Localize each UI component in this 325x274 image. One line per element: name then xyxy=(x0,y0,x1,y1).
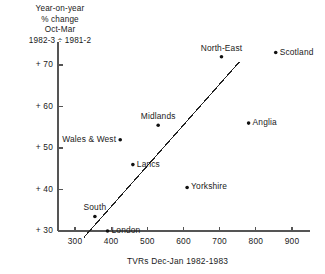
data-point-marker xyxy=(274,51,278,55)
data-point-marker xyxy=(106,229,110,233)
data-point-label: Yorkshire xyxy=(191,181,227,191)
trend-line-segment xyxy=(84,62,240,238)
data-point-label: London xyxy=(112,225,141,235)
x-tick-label: 400 xyxy=(91,236,131,246)
y-tick-label: + 50 xyxy=(17,142,53,152)
x-tick-label: 500 xyxy=(127,236,167,246)
data-point-label: Midlands xyxy=(141,111,176,121)
data-point-label: Anglia xyxy=(253,117,277,127)
data-point-marker xyxy=(93,215,97,219)
x-tick-label: 600 xyxy=(164,236,204,246)
y-tick-label: + 30 xyxy=(17,225,53,235)
trend-line xyxy=(84,62,240,238)
data-point-label: Lancs xyxy=(137,159,160,169)
data-point-marker xyxy=(118,138,122,142)
y-tick-label: + 60 xyxy=(17,101,53,111)
data-point-marker xyxy=(131,163,135,167)
data-point-marker xyxy=(220,55,224,59)
x-tick-label: 900 xyxy=(272,236,312,246)
data-point-marker xyxy=(185,186,189,190)
x-axis-title: TVRs Dec-Jan 1982-1983 xyxy=(0,256,325,266)
data-point-marker xyxy=(247,121,251,125)
y-tick-label: + 40 xyxy=(17,184,53,194)
scatter-chart: Year-on-year % change Oct-Mar 1982-3 ÷ 1… xyxy=(0,0,325,274)
data-point-label: North-East xyxy=(201,43,243,53)
data-points xyxy=(93,51,277,233)
x-tick-label: 700 xyxy=(200,236,240,246)
data-point-label: Scotland xyxy=(280,47,314,57)
data-point-label: Wales & West xyxy=(62,134,116,144)
data-point-label: South xyxy=(84,202,107,212)
x-tick-label: 800 xyxy=(236,236,276,246)
y-tick-label: + 70 xyxy=(17,59,53,69)
x-tick-label: 300 xyxy=(55,236,95,246)
data-point-marker xyxy=(156,123,160,127)
